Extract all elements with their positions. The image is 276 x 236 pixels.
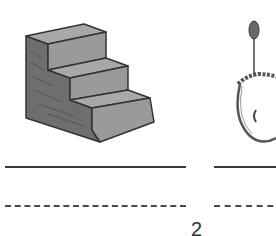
answer-line-dashed-1[interactable] xyxy=(5,205,186,207)
answer-line-solid-1[interactable] xyxy=(5,166,186,168)
answer-line-solid-2[interactable] xyxy=(214,166,276,168)
answer-line-dashed-2[interactable] xyxy=(214,205,276,207)
pendant-necklace-illustration xyxy=(236,18,276,143)
page-number: 2 xyxy=(191,219,202,236)
stairs-illustration xyxy=(18,18,168,143)
